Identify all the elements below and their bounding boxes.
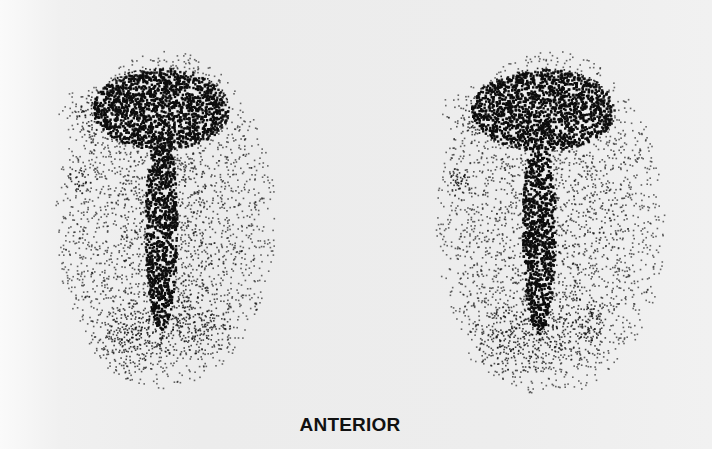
view-caption: ANTERIOR	[250, 414, 450, 436]
right-scan-image	[430, 50, 670, 395]
left-scan-image	[50, 50, 280, 390]
scintigraphy-figure: ANTERIOR	[0, 0, 712, 449]
